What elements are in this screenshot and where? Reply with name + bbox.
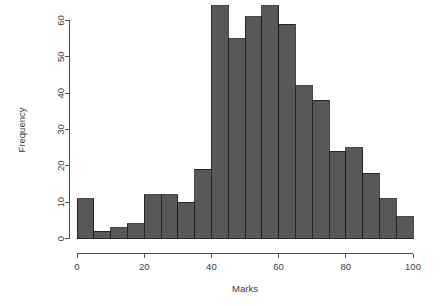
x-axis-tick-label: 100 — [405, 261, 421, 272]
histogram-bar — [211, 6, 228, 239]
histogram-bar — [94, 231, 111, 238]
histogram-bar — [279, 24, 296, 238]
histogram-bar — [127, 224, 144, 239]
y-axis-tick-label: 40 — [55, 88, 66, 99]
histogram-bar — [195, 169, 212, 238]
y-axis-tick-label: 50 — [55, 52, 66, 63]
x-axis-tick-label: 80 — [341, 261, 352, 272]
x-axis-tick-label: 20 — [139, 261, 150, 272]
histogram-bar — [228, 39, 245, 239]
histogram-bar — [144, 195, 161, 239]
histogram-bar — [329, 151, 346, 238]
y-axis-tick-label: 60 — [55, 15, 66, 26]
y-axis-tick-label: 0 — [55, 236, 66, 241]
histogram-bar — [161, 195, 178, 239]
histogram-bar — [312, 100, 329, 238]
y-axis-title: Frequency — [16, 107, 27, 152]
histogram-bar — [396, 217, 413, 239]
histogram-bar — [245, 17, 262, 239]
y-axis-tick-label: 10 — [55, 197, 66, 208]
histogram-chart: 0102030405060 020406080100 Marks Frequen… — [0, 0, 443, 306]
histogram-bar — [77, 199, 94, 239]
y-axis-tick-label: 20 — [55, 161, 66, 172]
histogram-bar — [111, 228, 128, 239]
histogram-bar — [363, 173, 380, 238]
x-axis-tick-label: 60 — [273, 261, 284, 272]
x-axis-tick-label: 0 — [74, 261, 79, 272]
x-axis-tick-label: 40 — [206, 261, 217, 272]
x-axis-title: Marks — [232, 283, 258, 294]
histogram-bar — [346, 148, 363, 239]
plot-area: 0102030405060 020406080100 Marks Frequen… — [0, 0, 443, 306]
y-axis-tick-label: 30 — [55, 124, 66, 135]
histogram-bar — [178, 202, 195, 238]
histogram-bar — [379, 199, 396, 239]
histogram-bar — [295, 86, 312, 239]
histogram-bar — [262, 6, 279, 239]
